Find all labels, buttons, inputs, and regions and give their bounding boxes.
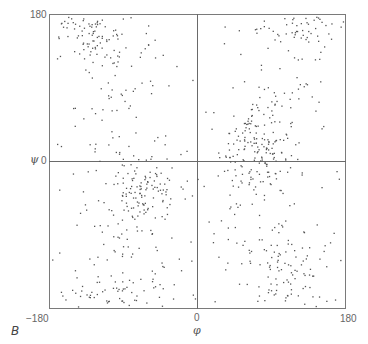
data-point: [335, 299, 336, 300]
data-point: [295, 144, 296, 145]
data-point: [331, 23, 332, 24]
data-point: [122, 254, 123, 255]
data-point: [229, 157, 230, 158]
data-point: [303, 288, 304, 289]
data-point: [215, 301, 216, 302]
data-point: [228, 227, 229, 228]
data-point: [331, 39, 332, 40]
data-point: [154, 140, 155, 141]
data-point: [126, 203, 127, 204]
data-point: [233, 116, 234, 117]
data-point: [240, 181, 241, 182]
data-point: [123, 178, 124, 179]
data-point: [119, 298, 120, 299]
data-point: [144, 179, 145, 180]
data-point: [76, 277, 77, 278]
data-point: [95, 48, 96, 49]
data-point: [318, 102, 319, 103]
data-point: [145, 189, 146, 190]
data-point: [270, 283, 271, 284]
data-point: [259, 264, 260, 265]
data-point: [132, 180, 133, 181]
data-point: [152, 271, 153, 272]
data-point: [185, 198, 186, 199]
data-point: [139, 193, 140, 194]
data-point: [117, 55, 118, 56]
data-point: [126, 188, 127, 189]
data-point: [274, 105, 275, 106]
data-point: [90, 51, 91, 52]
data-point: [275, 293, 276, 294]
data-point: [296, 271, 297, 272]
data-point: [102, 20, 103, 21]
data-point: [234, 214, 235, 215]
data-point: [256, 138, 257, 139]
data-point: [289, 205, 290, 206]
data-point: [269, 28, 270, 29]
data-point: [244, 139, 245, 140]
data-point: [273, 143, 274, 144]
data-point: [96, 170, 97, 171]
data-point: [146, 184, 147, 185]
data-point: [213, 112, 214, 113]
data-point: [229, 149, 230, 150]
data-point: [124, 288, 125, 289]
data-point: [127, 239, 128, 240]
data-point: [147, 182, 148, 183]
data-point: [211, 129, 212, 130]
data-point: [294, 203, 295, 204]
data-point: [52, 259, 53, 260]
data-point: [92, 62, 93, 63]
data-point: [271, 148, 272, 149]
data-point: [264, 21, 265, 22]
data-point: [108, 95, 109, 96]
data-point: [136, 186, 137, 187]
data-point: [261, 157, 262, 158]
data-point: [341, 27, 342, 28]
data-point: [82, 35, 83, 36]
data-point: [115, 30, 116, 31]
data-point: [106, 39, 107, 40]
data-point: [159, 284, 160, 285]
data-point: [106, 41, 107, 42]
data-point: [97, 24, 98, 25]
data-point: [83, 49, 84, 50]
data-point: [139, 211, 140, 212]
data-point: [245, 130, 246, 131]
data-point: [274, 227, 275, 228]
data-point: [264, 195, 265, 196]
data-point: [128, 210, 129, 211]
data-point: [213, 242, 214, 243]
data-point: [295, 34, 296, 35]
data-point: [292, 274, 293, 275]
data-point: [298, 89, 299, 90]
data-point: [111, 131, 112, 132]
data-point: [269, 117, 270, 118]
data-point: [309, 274, 310, 275]
data-point: [253, 189, 254, 190]
data-point: [274, 39, 275, 40]
data-point: [92, 35, 93, 36]
data-point: [148, 45, 149, 46]
data-point: [270, 153, 271, 154]
data-point: [260, 160, 261, 161]
data-point: [288, 243, 289, 244]
data-point: [275, 161, 276, 162]
data-point: [157, 187, 158, 188]
data-point: [267, 107, 268, 108]
data-point: [82, 286, 83, 287]
data-point: [88, 23, 89, 24]
data-point: [156, 176, 157, 177]
data-point: [302, 59, 303, 60]
data-point: [254, 160, 255, 161]
y-tick-0: 0: [41, 155, 47, 166]
data-point: [259, 239, 260, 240]
data-point: [113, 35, 114, 36]
data-point: [266, 166, 267, 167]
data-point: [136, 167, 137, 168]
data-point: [167, 214, 168, 215]
data-point: [229, 195, 230, 196]
data-point: [301, 264, 302, 265]
data-point: [118, 289, 119, 290]
data-point: [153, 287, 154, 288]
